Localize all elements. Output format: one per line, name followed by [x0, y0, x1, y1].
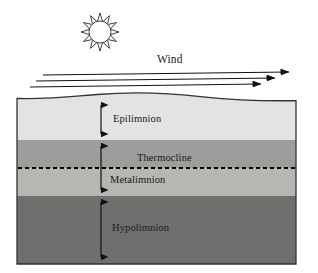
sun-core-icon — [89, 21, 111, 43]
hypolimnion-label: Hypolimnion — [112, 222, 169, 233]
wind-arrow-1 — [43, 72, 289, 75]
epilimnion-label: Epilimnion — [113, 113, 161, 124]
metalimnion-label: Metalimnion — [110, 174, 165, 185]
wind-label: Wind — [157, 53, 183, 65]
thermocline-label: Thermocline — [137, 152, 192, 163]
wind-arrow-group — [30, 72, 289, 87]
sun-icon — [81, 13, 119, 51]
lake-stratification-diagram: Wind Epilimnion Thermocline Metalimnion … — [0, 0, 318, 273]
wind-arrow-2 — [36, 78, 275, 81]
wind-arrow-3 — [30, 84, 261, 87]
